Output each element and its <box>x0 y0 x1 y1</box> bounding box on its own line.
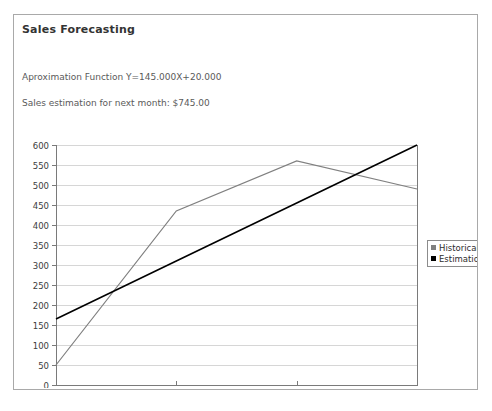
chart-gridlines <box>56 146 417 366</box>
y-tick-label: 200 <box>33 301 49 311</box>
legend-label-historical[interactable]: Historical <box>439 243 477 253</box>
legend-swatch-estimation <box>431 256 436 261</box>
y-tick-label: 600 <box>33 141 49 151</box>
sales-estimation-text: Sales estimation for next month: $745.00 <box>22 98 210 108</box>
series-line-estimation <box>56 145 417 319</box>
forecast-line-chart: 050100150200250300350400450500550600 Mar… <box>14 118 477 388</box>
chart-legend[interactable]: HistoricalEstimation <box>428 241 478 267</box>
y-tick-label: 550 <box>33 161 49 171</box>
series-line-historical <box>56 161 417 365</box>
legend-swatch-historical <box>431 245 436 250</box>
y-tick-label: 450 <box>33 201 49 211</box>
approximation-function-text: Aproximation Function Y=145.000X+20.000 <box>22 72 221 82</box>
y-axis-tick-labels: 050100150200250300350400450500550600 <box>33 141 49 389</box>
y-tick-label: 0 <box>44 381 49 389</box>
y-tick-label: 400 <box>33 221 49 231</box>
y-tick-label: 150 <box>33 321 49 331</box>
chart-svg: 050100150200250300350400450500550600 Mar… <box>14 118 477 388</box>
y-tick-label: 350 <box>33 241 49 251</box>
sales-forecasting-panel: Sales Forecasting Aproximation Function … <box>13 14 478 390</box>
y-tick-label: 100 <box>33 341 49 351</box>
legend-label-estimation[interactable]: Estimation <box>439 254 477 264</box>
screenshot-root: Sales Forecasting Aproximation Function … <box>0 0 492 411</box>
y-tick-label: 250 <box>33 281 49 291</box>
y-tick-label: 500 <box>33 181 49 191</box>
chart-series <box>56 145 417 365</box>
y-tick-label: 50 <box>38 361 49 371</box>
y-tick-label: 300 <box>33 261 49 271</box>
page-title: Sales Forecasting <box>22 23 135 36</box>
